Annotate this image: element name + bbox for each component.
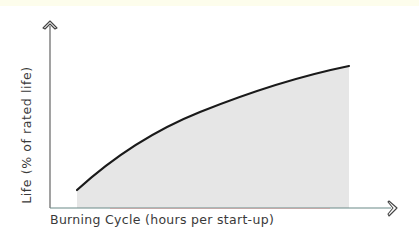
x-axis-label: Burning Cycle (hours per start-up) bbox=[50, 212, 274, 227]
area-fill bbox=[77, 66, 349, 208]
y-axis-label: Life (% of rated life) bbox=[19, 66, 34, 204]
chart-canvas bbox=[0, 0, 419, 247]
